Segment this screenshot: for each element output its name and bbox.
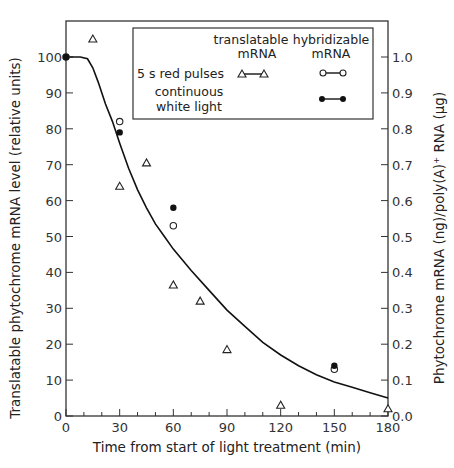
y-right-tick-label: 0.7 xyxy=(392,158,413,173)
y-axis-left-title: Translatable phytochrome mRNA level (rel… xyxy=(7,57,23,420)
legend: translatable mRNA hybridizable mRNA 5 s … xyxy=(133,28,373,119)
y-tick-label: 70 xyxy=(45,158,62,173)
x-axis-title: Time from start of light treatment (min) xyxy=(92,439,361,455)
y-tick-label: 0 xyxy=(54,409,62,424)
open-circle-marker xyxy=(170,223,176,229)
y-tick-label: 80 xyxy=(45,122,62,137)
x-tick-label: 60 xyxy=(165,420,182,435)
legend-row-white-light: continuous xyxy=(155,84,224,99)
y-tick-label: 10 xyxy=(45,373,62,388)
y-right-tick-label: 0.6 xyxy=(392,194,413,209)
y-right-tick-label: 0.5 xyxy=(392,230,413,245)
y-right-tick-label: 0.2 xyxy=(392,337,413,352)
y-tick-label: 20 xyxy=(45,337,62,352)
filled-circle-marker xyxy=(170,205,176,211)
y-right-tick-label: 0.9 xyxy=(392,86,413,101)
y-right-tick-label: 0.1 xyxy=(392,373,413,388)
filled-circle-marker xyxy=(331,363,337,369)
y-tick-label: 90 xyxy=(45,86,62,101)
y-right-tick-label: 0.0 xyxy=(392,409,413,424)
y-tick-label: 40 xyxy=(45,265,62,280)
y-tick-label: 30 xyxy=(45,301,62,316)
triangle-marker xyxy=(196,297,204,304)
triangle-marker xyxy=(143,159,151,166)
triangle-marker xyxy=(384,405,392,412)
y-axis-right-title: Phytochrome mRNA (ng)/poly(A)⁺ RNA (μg) xyxy=(431,92,447,384)
legend-col-translatable-sub: mRNA xyxy=(238,46,277,61)
y-tick-label: 100 xyxy=(37,50,62,65)
open-circle-marker xyxy=(116,118,122,124)
x-tick-label: 90 xyxy=(219,420,236,435)
y-right-tick-label: 0.3 xyxy=(392,301,413,316)
triangle-marker xyxy=(277,401,285,408)
legend-row-red-pulses: 5 s red pulses xyxy=(137,66,224,81)
y-right-tick-label: 0.4 xyxy=(392,265,413,280)
y-axis-left: 0102030405060708090100 xyxy=(37,50,73,424)
triangle-marker xyxy=(223,346,231,353)
triangle-marker xyxy=(169,281,177,288)
x-tick-label: 0 xyxy=(62,420,70,435)
legend-row-white-light-sub: white light xyxy=(156,99,222,114)
y-right-tick-label: 0.8 xyxy=(392,122,413,137)
y-tick-label: 60 xyxy=(45,194,62,209)
x-tick-label: 30 xyxy=(111,420,128,435)
filled-circle-marker xyxy=(116,129,122,135)
filled-circle-marker xyxy=(63,54,69,60)
triangle-marker xyxy=(89,35,97,42)
y-right-tick-label: 1.0 xyxy=(392,50,413,65)
x-tick-label: 150 xyxy=(322,420,347,435)
chart: 0306090120150180 0102030405060708090100 … xyxy=(0,0,454,468)
legend-col-translatable: translatable xyxy=(214,32,289,47)
legend-col-hybridizable-sub: mRNA xyxy=(312,46,351,61)
y-axis-right: 0.00.10.20.30.40.50.60.70.80.91.0 xyxy=(381,50,413,424)
triangle-marker xyxy=(116,182,124,189)
x-tick-label: 120 xyxy=(268,420,293,435)
y-tick-label: 50 xyxy=(45,230,62,245)
x-axis: 0306090120150180 xyxy=(62,409,401,435)
legend-col-hybridizable: hybridizable xyxy=(293,32,370,47)
